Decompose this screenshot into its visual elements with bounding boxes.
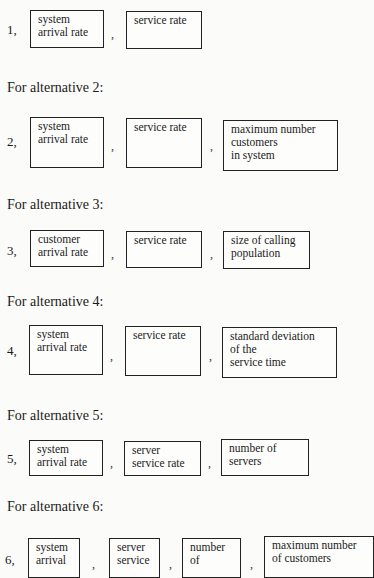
box-line: system: [37, 443, 102, 456]
box-line: service rate: [132, 457, 200, 470]
box-line: population: [231, 247, 309, 260]
alt3-param-service-rate: service rate: [126, 231, 202, 268]
box-line: arrival rate: [37, 341, 102, 354]
alternative-5-heading: For alternative 5:: [7, 408, 103, 424]
box-line: arrival: [36, 554, 79, 567]
separator-comma: ,: [111, 140, 114, 152]
box-line: arrival rate: [38, 246, 103, 259]
box-line: customer: [38, 233, 103, 246]
box-line: number: [190, 541, 240, 554]
alt1-param-system-arrival-rate: system arrival rate: [30, 10, 104, 48]
alt2-param-system-arrival-rate: system arrival rate: [30, 117, 104, 168]
alternative-5-number: 5,: [7, 452, 17, 466]
box-line: maximum number: [272, 539, 373, 552]
alt6-param-server-service: server service: [109, 538, 160, 578]
alt4-param-service-rate: service rate: [125, 326, 201, 376]
separator-comma: ,: [111, 248, 114, 260]
alt5-param-system-arrival-rate: system arrival rate: [29, 440, 103, 476]
separator-comma: ,: [111, 28, 114, 40]
separator-comma: ,: [169, 558, 172, 570]
box-line: maximum number: [231, 123, 337, 136]
separator-comma: ,: [210, 140, 213, 152]
box-line: service rate: [134, 234, 201, 247]
box-line: server: [117, 541, 159, 554]
alt2-param-max-customers-in-system: maximum number customers in system: [223, 120, 338, 171]
box-line: arrival rate: [38, 26, 103, 39]
separator-comma: ,: [110, 457, 113, 469]
alt3-param-customer-arrival-rate: customer arrival rate: [30, 230, 104, 267]
separator-comma: ,: [209, 350, 212, 362]
box-line: arrival rate: [38, 133, 103, 146]
box-line: number of: [229, 442, 308, 455]
box-line: of: [190, 554, 240, 567]
alternative-2-heading: For alternative 2:: [7, 80, 103, 96]
box-line: of the: [230, 343, 336, 356]
box-line: servers: [229, 455, 308, 468]
alternative-3-heading: For alternative 3:: [7, 197, 103, 213]
box-line: service time: [230, 356, 336, 369]
box-line: system: [37, 328, 102, 341]
separator-comma: ,: [210, 248, 213, 260]
alt6-param-system-arrival: system arrival: [28, 538, 80, 578]
box-line: system: [38, 13, 103, 26]
box-line: system: [38, 120, 103, 133]
box-line: customers: [231, 136, 337, 149]
separator-comma: ,: [208, 457, 211, 469]
alt3-param-calling-population-size: size of calling population: [223, 231, 310, 269]
box-line: size of calling: [231, 234, 309, 247]
alt1-param-service-rate: service rate: [126, 11, 202, 49]
box-line: service: [117, 554, 159, 567]
alternative-6-heading: For alternative 6:: [7, 499, 103, 515]
box-line: service rate: [134, 121, 201, 134]
alternative-4-heading: For alternative 4:: [7, 294, 103, 310]
alt2-param-service-rate: service rate: [126, 118, 202, 168]
alternative-6-number: 6,: [5, 553, 15, 567]
box-line: of customers: [272, 552, 373, 565]
box-line: in system: [231, 149, 337, 162]
box-line: system: [36, 541, 79, 554]
box-line: server: [132, 444, 200, 457]
box-line: standard deviation: [230, 330, 336, 343]
separator-comma: ,: [110, 350, 113, 362]
alt6-param-number-of: number of: [182, 538, 241, 578]
alternative-2-number: 2,: [7, 135, 17, 149]
alt4-param-system-arrival-rate: system arrival rate: [29, 325, 103, 375]
box-line: service rate: [133, 329, 200, 342]
box-line: arrival rate: [37, 456, 102, 469]
alternative-1-number: 1,: [7, 23, 17, 37]
alt5-param-number-of-servers: number of servers: [221, 439, 309, 476]
alternative-3-number: 3,: [7, 244, 17, 258]
box-line: service rate: [134, 14, 201, 27]
alt6-param-max-number-of-customers: maximum number of customers: [264, 536, 374, 578]
alternative-4-number: 4,: [7, 344, 17, 358]
alt5-param-server-service-rate: server service rate: [124, 441, 201, 476]
separator-comma: ,: [250, 558, 253, 570]
alt4-param-service-time-std-dev: standard deviation of the service time: [222, 327, 337, 378]
separator-comma: ,: [92, 558, 95, 570]
